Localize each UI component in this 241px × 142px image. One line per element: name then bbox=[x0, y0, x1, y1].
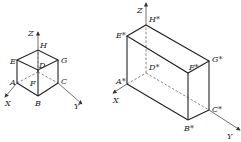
right-box-figure: Z X Y H* E* G* F* D* A* C* B* bbox=[112, 3, 240, 141]
right-x-label: X bbox=[112, 96, 119, 105]
left-edge-BC bbox=[38, 83, 58, 96]
right-y-label: Y bbox=[227, 132, 233, 141]
left-label-E: E bbox=[9, 57, 16, 66]
left-label-G: G bbox=[61, 56, 68, 65]
right-label-C: C* bbox=[212, 105, 222, 114]
right-label-A: A* bbox=[115, 77, 126, 86]
right-label-F: F* bbox=[188, 63, 199, 72]
right-label-H: H* bbox=[148, 15, 160, 24]
right-label-D: D* bbox=[148, 63, 159, 72]
right-label-G: G* bbox=[212, 55, 222, 64]
right-label-E: E* bbox=[115, 31, 126, 40]
left-z-label: Z bbox=[27, 29, 34, 38]
left-top-face bbox=[17, 50, 58, 70]
left-label-B: B bbox=[34, 99, 41, 108]
diagram-canvas: Z X Y H E G D F A C B Z X Y H* E* G* F* bbox=[0, 0, 241, 142]
left-label-F: F bbox=[29, 79, 36, 88]
right-z-label: Z bbox=[136, 6, 143, 15]
left-y-label: Y bbox=[74, 102, 80, 111]
right-edge-AB bbox=[127, 84, 188, 120]
left-y-axis bbox=[58, 83, 82, 104]
right-edge-DC bbox=[146, 73, 209, 110]
right-edge-BC bbox=[188, 110, 209, 120]
left-cube-figure: Z X Y H E G D F A C B bbox=[4, 29, 82, 111]
left-label-D: D bbox=[38, 61, 46, 70]
left-x-label: X bbox=[4, 99, 11, 108]
left-label-C: C bbox=[61, 77, 67, 86]
left-label-A: A bbox=[9, 78, 16, 87]
right-label-B: B* bbox=[183, 124, 194, 133]
right-edge-AD bbox=[127, 73, 146, 84]
left-edge-DC bbox=[38, 72, 58, 83]
left-label-H: H bbox=[39, 41, 48, 50]
